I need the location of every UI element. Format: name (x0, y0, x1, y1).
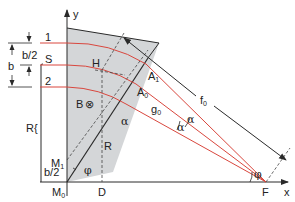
magnetic-field-label: B⊗ (76, 98, 94, 110)
g0-label: g0 (151, 103, 161, 116)
b-label: b (8, 60, 14, 72)
radius-label-inner: R (104, 140, 112, 152)
b-half-bottom-label: b/2 (44, 166, 59, 178)
point-A0-label: A0 (137, 86, 148, 99)
b-half-label: b/2 (22, 49, 37, 61)
point-H-label: H (92, 57, 100, 69)
x-axis-label: x (284, 186, 290, 198)
central-ray-label: S (45, 53, 52, 65)
f0-label: f0 (200, 94, 207, 107)
phi-angle-focus: φ (254, 168, 262, 181)
point-F-label: F (262, 186, 269, 198)
ray-1-label: 1 (45, 31, 51, 43)
y-axis-label: y (73, 8, 79, 20)
radius-label-left: R (26, 122, 34, 134)
alpha-angle-upper: α (187, 113, 195, 126)
into-page-icon: ⊗ (85, 98, 94, 110)
radius-bracket (41, 64, 43, 182)
sector-magnet-diagram: y x R { b b/2 1 S 2 (0, 0, 295, 202)
ray-2-label: 2 (45, 75, 51, 87)
point-M0-label: M0 (52, 186, 65, 199)
point-D-label: D (98, 186, 106, 198)
alpha-angle-edge: α (121, 115, 129, 128)
brace-icon: { (34, 122, 38, 134)
point-A1-label: A1 (148, 70, 159, 83)
alpha-angle-lower: α (177, 121, 185, 134)
phi-angle-bottom: φ (84, 164, 92, 177)
